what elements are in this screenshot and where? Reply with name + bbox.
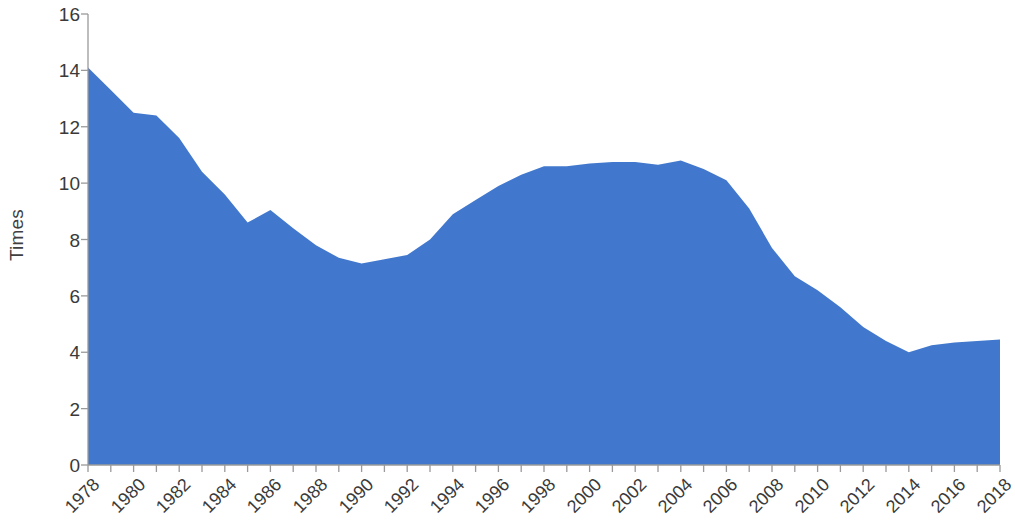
x-axis-tick-label: 2018 [960,475,1015,523]
